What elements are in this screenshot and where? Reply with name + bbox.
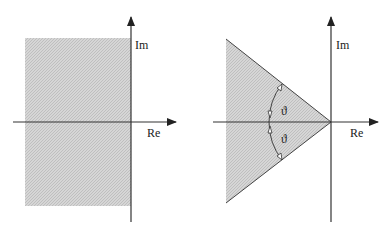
complex-plane-figures: Im Re ϑ ϑ Im Re — [0, 0, 389, 232]
sector-region — [226, 39, 331, 203]
right-diagram: ϑ ϑ Im Re — [213, 17, 378, 222]
angle-label-lower: ϑ — [281, 132, 287, 146]
left-im-label: Im — [135, 38, 149, 52]
angle-label-upper: ϑ — [281, 104, 287, 118]
left-re-label: Re — [147, 126, 160, 140]
right-im-label: Im — [336, 38, 350, 52]
right-re-label: Re — [350, 126, 363, 140]
left-diagram: Im Re — [13, 17, 176, 222]
